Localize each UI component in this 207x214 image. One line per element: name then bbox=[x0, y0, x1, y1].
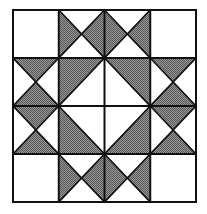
shaded-triangle-left bbox=[59, 10, 82, 58]
shaded-triangle-bottom bbox=[150, 130, 196, 154]
shaded-triangle-bottom bbox=[13, 130, 59, 154]
shaded-triangle-bottom bbox=[150, 82, 196, 106]
shaded-triangle-top bbox=[13, 106, 59, 130]
shaded-triangle-left bbox=[59, 154, 82, 202]
shaded-triangle-bottom bbox=[13, 82, 59, 106]
shaded-triangle-left bbox=[105, 154, 128, 202]
shaded-triangle-right bbox=[82, 154, 105, 202]
shaded-triangle-top bbox=[13, 58, 59, 82]
quilt-block-diagram bbox=[0, 0, 207, 214]
shaded-triangle-right bbox=[127, 10, 150, 58]
shaded-triangle-left bbox=[105, 10, 128, 58]
shaded-triangle-right bbox=[82, 10, 105, 58]
quilt-seams bbox=[13, 10, 196, 202]
shaded-triangle-top bbox=[150, 106, 196, 130]
shaded-triangle-top bbox=[150, 58, 196, 82]
shaded-triangle-right bbox=[127, 154, 150, 202]
